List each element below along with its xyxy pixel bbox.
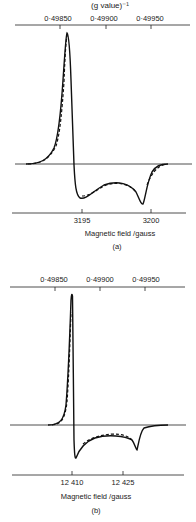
- panel-label: (a): [112, 242, 122, 251]
- top-tick-label: 0·49850: [40, 275, 68, 284]
- simulated-trace: [28, 36, 166, 196]
- top-tick-label: 0·49900: [86, 275, 114, 284]
- panel-a: (g value)⁻¹ 0·49850 0·49900 0·49950 3195…: [12, 1, 192, 251]
- bottom-tick-label: 3200: [143, 216, 160, 225]
- experimental-trace: [26, 33, 168, 204]
- experimental-trace: [48, 294, 168, 458]
- top-axis-label: (g value)⁻¹: [91, 1, 129, 10]
- epr-spectra-figure: (g value)⁻¹ 0·49850 0·49900 0·49950 3195…: [0, 0, 196, 522]
- bottom-tick-label: 12 410: [61, 478, 84, 487]
- panel-label: (b): [91, 506, 101, 515]
- panel-b: 0·49850 0·49900 0·49950 12 410 12 425 Ma…: [10, 275, 186, 515]
- bottom-tick-label: 3195: [74, 216, 91, 225]
- top-tick-label: 0·49950: [136, 14, 164, 23]
- top-tick-label: 0·49950: [132, 275, 160, 284]
- simulated-trace: [52, 312, 132, 444]
- x-axis-label: Magnetic field /gauss: [85, 229, 156, 238]
- top-tick-label: 0·49900: [90, 14, 118, 23]
- x-axis-label: Magnetic field /gauss: [61, 492, 132, 501]
- top-tick-label: 0·49850: [44, 14, 72, 23]
- bottom-tick-label: 12 425: [112, 478, 135, 487]
